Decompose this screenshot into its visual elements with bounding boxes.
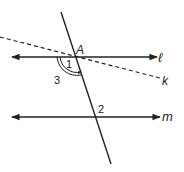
line-l-label: ℓ (158, 50, 163, 65)
point-a-label: A (75, 43, 84, 57)
angle-3-label: 3 (54, 74, 60, 86)
angle-2-label: 2 (98, 103, 104, 115)
diagram-svg: A ℓ k m 1 3 2 (0, 0, 184, 172)
line-k-label: k (162, 74, 169, 88)
transversal-line (61, 12, 111, 164)
angle-1-label: 1 (66, 58, 72, 70)
geometry-diagram: A ℓ k m 1 3 2 (0, 0, 184, 172)
line-m-label: m (162, 109, 173, 124)
